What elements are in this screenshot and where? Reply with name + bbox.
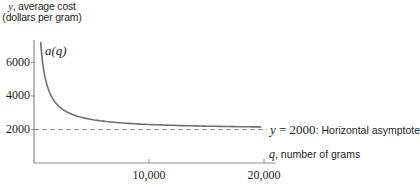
asymptote-equation: = 2000 [276, 122, 316, 137]
y-axis-label: y, average cost (dollars per gram) [0, 1, 84, 23]
asymptote-label: y = 2000: Horizontal asymptote [270, 120, 420, 138]
y-tick-label-2000: 2000 [2, 122, 30, 137]
y-tick-label-6000: 6000 [2, 55, 30, 70]
x-tick-label-20000: 20,000 [239, 168, 289, 183]
y-tick-label-4000: 4000 [2, 88, 30, 103]
x-axis-label: q, number of grams [269, 147, 360, 162]
y-axis-label-line2: (dollars per gram) [2, 11, 81, 23]
average-cost-curve [41, 42, 262, 127]
curve-label: a(q) [45, 43, 67, 59]
x-tick-label-10000: 10,000 [124, 168, 174, 183]
x-axis-label-text: , number of grams [275, 148, 360, 160]
axes [31, 40, 276, 163]
asymptote-description: : Horizontal asymptote [316, 124, 420, 136]
